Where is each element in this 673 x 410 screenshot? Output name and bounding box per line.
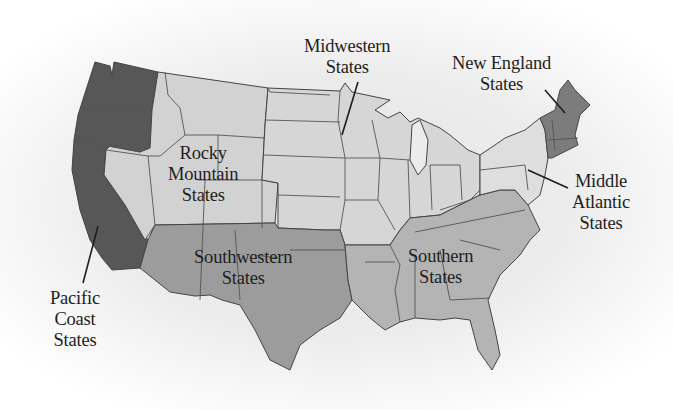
label-line: Mountain (168, 164, 238, 185)
label-line: States (452, 74, 551, 95)
label-line: Southern (408, 246, 473, 267)
label-line: Southwestern (194, 247, 292, 268)
label-line: States (168, 185, 238, 206)
label-southern-states: Southern States (408, 246, 473, 288)
label-line: Middle (572, 171, 630, 192)
label-line: Atlantic (572, 192, 630, 213)
label-line: States (194, 268, 292, 289)
region-southwestern (140, 223, 352, 370)
label-line: States (408, 267, 473, 288)
label-line: States (304, 57, 390, 78)
label-line: New England (452, 53, 551, 74)
label-rocky-mountain-states: Rocky Mountain States (168, 143, 238, 206)
label-middle-atlantic-states: Middle Atlantic States (572, 171, 630, 234)
label-line: Coast (50, 309, 100, 330)
label-new-england-states: New England States (452, 53, 551, 95)
label-pacific-coast-states: Pacific Coast States (50, 288, 100, 351)
label-line: Rocky (168, 143, 238, 164)
label-line: States (572, 213, 630, 234)
label-line: States (50, 330, 100, 351)
label-line: Pacific (50, 288, 100, 309)
label-midwestern-states: Midwestern States (304, 36, 390, 78)
label-line: Midwestern (304, 36, 390, 57)
label-southwestern-states: Southwestern States (194, 247, 292, 289)
